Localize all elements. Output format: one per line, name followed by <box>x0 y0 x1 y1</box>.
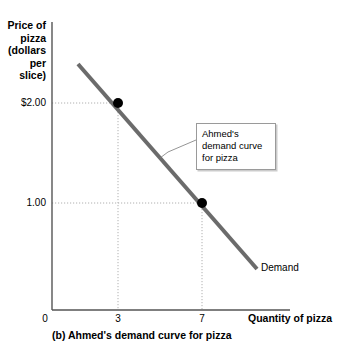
demand-curve-label: Demand <box>261 262 299 273</box>
callout-leader-line <box>160 140 196 158</box>
y-tick-label-200: $2.00 <box>2 97 46 108</box>
data-point-a <box>113 98 123 108</box>
plot-area <box>0 0 342 348</box>
demand-curve-figure: Price of pizza (dollars per slice) $2.00… <box>0 0 342 348</box>
data-point-b <box>197 198 207 208</box>
x-tick-label-origin: 0 <box>35 313 55 324</box>
y-axis-title: Price of pizza (dollars per slice) <box>0 19 46 82</box>
x-tick-label-7: 7 <box>192 313 212 324</box>
figure-caption: (b) Ahmed's demand curve for pizza <box>52 329 231 341</box>
x-tick-label-3: 3 <box>108 313 128 324</box>
annotation-callout: Ahmed's demand curve for pizza <box>196 123 276 170</box>
x-axis-title: Quantity of pizza <box>248 312 332 324</box>
y-tick-label-100: 1.00 <box>2 197 46 208</box>
